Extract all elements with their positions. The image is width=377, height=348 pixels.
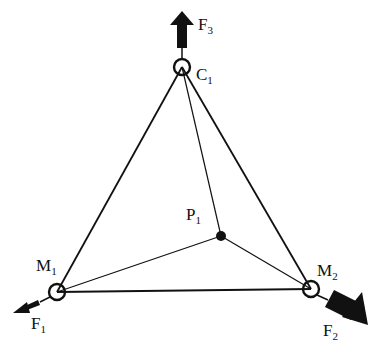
label-f3: F3 <box>198 15 213 36</box>
force-diagram: F3 C1 P1 M1 F1 M2 F2 <box>0 0 377 348</box>
label-m2: M2 <box>317 261 338 282</box>
label-m1: M1 <box>36 256 57 277</box>
force-arrow-f2 <box>317 290 368 325</box>
edge-m2-p1 <box>221 236 311 289</box>
label-c1: C1 <box>196 65 213 86</box>
label-f1: F1 <box>31 314 46 335</box>
label-f2: F2 <box>323 321 338 342</box>
node-p1-point <box>216 231 226 241</box>
force-arrow-f1 <box>13 297 50 313</box>
label-p1: P1 <box>186 205 201 226</box>
edge-m1-m2 <box>57 289 311 292</box>
edge-m1-p1 <box>57 236 221 292</box>
edge-c1-m1 <box>57 67 182 292</box>
edge-c1-m2 <box>182 67 311 289</box>
force-arrow-f3 <box>170 11 194 58</box>
